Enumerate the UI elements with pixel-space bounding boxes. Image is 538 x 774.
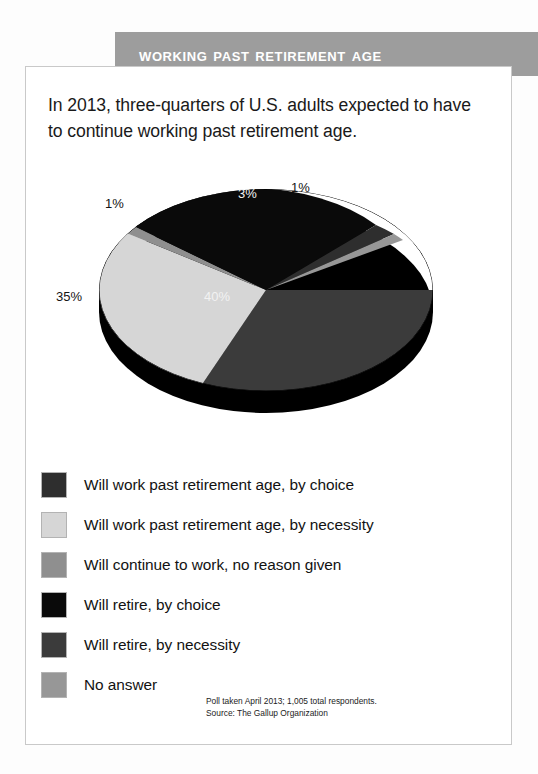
content-card: In 2013, three-quarters of U.S. adults e…	[25, 66, 512, 745]
legend-item-label: Will work past retirement age, by necess…	[84, 515, 374, 535]
source-line-2: Source: The Gallup Organization	[206, 708, 486, 720]
pie-label-right-tiny: 1%	[291, 180, 310, 195]
legend-item-retire-by-necessity: Will retire, by necessity	[40, 625, 500, 665]
legend-item-label: No answer	[84, 675, 157, 695]
legend-swatch-icon	[41, 592, 67, 618]
legend-swatch-icon	[41, 512, 67, 538]
subtitle-text: In 2013, three-quarters of U.S. adults e…	[48, 92, 488, 144]
legend-swatch-icon	[41, 672, 67, 698]
legend-swatch-icon	[41, 472, 67, 498]
legend-item-will-work-by-necessity: Will work past retirement age, by necess…	[40, 505, 500, 545]
legend-item-will-work-by-choice: Will work past retirement age, by choice	[40, 465, 500, 505]
legend-item-continue-no-reason: Will continue to work, no reason given	[40, 545, 500, 585]
legend-item-label: Will work past retirement age, by choice	[84, 475, 354, 495]
pie-chart: 1% 3% 1% 35% 40%	[26, 172, 511, 422]
legend-item-retire-by-choice: Will retire, by choice	[40, 585, 500, 625]
pie-label-light-large: 35%	[56, 289, 82, 304]
legend-item-label: Will continue to work, no reason given	[84, 555, 341, 575]
page-title: Working Past Retirement Age	[139, 45, 382, 64]
pie-label-right-small: 3%	[238, 186, 257, 201]
legend-swatch-icon	[41, 552, 67, 578]
legend-item-label: Will retire, by choice	[84, 595, 221, 615]
source-line-1: Poll taken April 2013; 1,005 total respo…	[206, 696, 486, 708]
legend-swatch-icon	[41, 632, 67, 658]
infographic-root: Working Past Retirement Age In 2013, thr…	[0, 0, 538, 774]
source-note: Poll taken April 2013; 1,005 total respo…	[206, 696, 486, 719]
pie-label-left-small: 1%	[105, 196, 124, 211]
pie-label-dark-large: 40%	[204, 289, 230, 304]
pie-chart-svg	[26, 172, 511, 422]
legend: Will work past retirement age, by choice…	[40, 465, 500, 705]
legend-item-label: Will retire, by necessity	[84, 635, 240, 655]
